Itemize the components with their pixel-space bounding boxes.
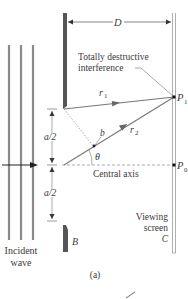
incident-label-line1: Incident [5,245,38,256]
point-p1-subscript: 1 [184,98,188,106]
screen-label-line2: screen [144,223,169,233]
screen-label-line3: C [162,234,169,244]
angle-arc [89,150,92,165]
point-p1 [173,96,176,99]
point-p1-label: P [176,92,184,103]
single-slit-diffraction-diagram: D Totally destructive interference r 1 r… [0,0,188,299]
point-b [93,145,96,148]
figure-caption: (a) [90,270,101,281]
incident-label-line2: wave [10,257,32,268]
point-p0-subscript: 0 [184,166,188,174]
half-width-bottom-label: a/2 [44,188,56,198]
stray-mark [126,292,135,298]
half-width-dimension [47,109,57,221]
point-b-label: b [100,128,105,138]
central-axis-label: Central axis [93,169,139,179]
screen-label-line1: Viewing [136,212,168,222]
ray-r1-subscript: 1 [104,92,108,100]
point-p0-label: P [176,160,184,171]
incident-wavefronts [9,45,33,240]
annotation-text-line1: Totally destructive [78,52,149,62]
angle-label: θ [95,151,100,162]
lower-barrier-b [63,225,68,252]
half-width-top-label: a/2 [44,132,56,142]
annotation-leader-line [135,68,173,96]
viewing-screen [173,13,176,253]
ray-r2-subscript: 2 [135,129,139,137]
distance-label: D [113,17,122,28]
barrier-label: B [72,236,78,247]
point-p0 [173,164,176,167]
upper-barrier [63,13,67,109]
ray-r2-label: r [130,124,134,135]
annotation-text-line2: interference [78,63,123,73]
perpendicular-dotted-line [64,109,94,147]
ray-r1-label: r [99,87,103,98]
